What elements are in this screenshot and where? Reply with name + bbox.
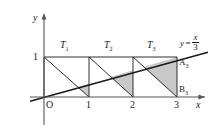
y-axis-arrow-icon: [42, 13, 47, 20]
x-tick-label-3: 3: [174, 100, 179, 110]
x-tick-label-2: 2: [130, 100, 135, 110]
origin-label: O: [46, 100, 53, 110]
point-label-b3: B3: [179, 85, 188, 96]
equation-lhs: y: [180, 38, 184, 48]
region-label-t3-subscript: 3: [153, 46, 156, 52]
region-label-t2: T2: [104, 40, 113, 52]
equation-relation: =: [185, 38, 191, 48]
equation-fraction: x 3: [192, 33, 199, 52]
equation-numerator: x: [193, 33, 199, 42]
equation-denominator: 3: [192, 43, 199, 52]
region-label-t1-subscript: 1: [66, 46, 69, 52]
point-label-a3-subscript: 3: [186, 63, 189, 69]
x-tick-label-1: 1: [86, 100, 91, 110]
line-equation-label: y= x 3: [180, 33, 199, 52]
point-label-b3-subscript: 3: [185, 90, 188, 96]
geometry-figure: x y O 1 2 3 1 T1 T2 T3 A3 B3 y= x 3: [0, 0, 224, 133]
region-label-t1: T1: [60, 40, 69, 52]
region-label-t3: T3: [147, 40, 156, 52]
shaded-regions: [77, 57, 177, 97]
y-tick-label-1: 1: [33, 52, 38, 62]
y-axis-label: y: [33, 13, 37, 23]
point-label-a3: A3: [179, 58, 189, 69]
x-axis-label: x: [196, 100, 200, 110]
region-label-t2-subscript: 2: [110, 46, 113, 52]
